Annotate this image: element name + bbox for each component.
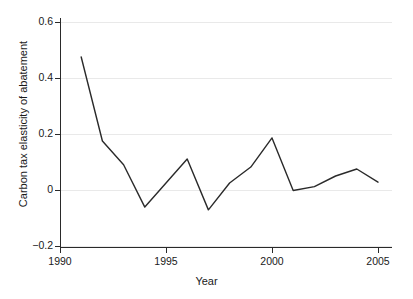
gridline-0 (60, 190, 392, 191)
gridline-0.6 (60, 22, 392, 23)
y-tick-mark-0.6 (55, 22, 60, 23)
x-tick-mark-2000 (272, 248, 273, 253)
y-axis-line (60, 18, 61, 248)
x-tick-mark-1990 (60, 248, 61, 253)
gridline-0.4 (60, 78, 392, 79)
x-tick-mark-2005 (378, 248, 379, 253)
x-tick-label-2005: 2005 (366, 256, 389, 267)
x-axis-title: Year (0, 275, 413, 287)
chart-figure: 0.6 0.4 0.2 0 −0.2 1990 1995 2000 2005 Y… (0, 0, 413, 299)
y-tick-label-neg0.2: −0.2 (18, 240, 53, 251)
y-tick-mark-0.2 (55, 134, 60, 135)
gridline-0.2 (60, 134, 392, 135)
y-axis-title: Carbon tax elasticity of abatement (17, 9, 29, 239)
plot-area (60, 14, 392, 252)
x-tick-mark-1995 (166, 248, 167, 253)
x-tick-label-1995: 1995 (154, 256, 177, 267)
y-tick-mark-0 (55, 190, 60, 191)
y-tick-mark-0.4 (55, 78, 60, 79)
x-tick-label-1990: 1990 (48, 256, 71, 267)
y-tick-mark-neg0.2 (55, 246, 60, 247)
x-axis-line (60, 247, 392, 248)
x-tick-label-2000: 2000 (260, 256, 283, 267)
